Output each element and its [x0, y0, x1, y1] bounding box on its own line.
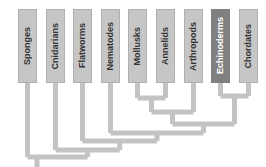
taxon-label-nematodes: Nematodes [106, 22, 115, 71]
taxon-box-nematodes[interactable]: Nematodes [101, 9, 120, 83]
taxon-label-echinoderms: Echinoderms [216, 17, 225, 74]
taxon-box-flatworms[interactable]: Flatworms [73, 9, 92, 83]
taxon-box-mollusks[interactable]: Mollusks [128, 9, 147, 83]
taxon-label-mollusks: Mollusks [133, 27, 142, 66]
taxon-box-cnidarians[interactable]: Cnidarians [46, 9, 65, 83]
taxon-label-sponges: Sponges [23, 27, 32, 65]
cladogram-diagram: SpongesCnidariansFlatwormsNematodesMollu… [0, 0, 266, 167]
taxon-box-annelids[interactable]: Annelids [156, 9, 175, 83]
taxon-label-annelids: Annelids [161, 27, 170, 65]
taxon-box-sponges[interactable]: Sponges [18, 9, 37, 83]
taxon-box-chordates[interactable]: Chordates [239, 9, 258, 83]
taxon-box-arthropods[interactable]: Arthropods [184, 9, 203, 83]
taxon-label-flatworms: Flatworms [78, 23, 87, 68]
taxon-label-cnidarians: Cnidarians [51, 23, 60, 70]
taxon-label-arthropods: Arthropods [189, 22, 198, 71]
taxon-label-chordates: Chordates [244, 24, 253, 69]
taxon-box-echinoderms[interactable]: Echinoderms [211, 9, 230, 83]
